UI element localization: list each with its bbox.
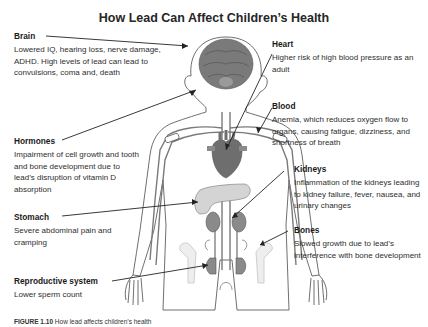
- pelvis-gap: [220, 283, 232, 291]
- kidneys-section: Kidneys Inflammation of the kidneys lead…: [294, 164, 426, 212]
- heart-text: Higher risk of high blood pressure as an…: [272, 52, 422, 75]
- blood-section: Blood Anemia, which reduces oxygen flow …: [272, 101, 424, 149]
- heart-section: Heart Higher risk of high blood pressure…: [272, 39, 422, 75]
- blood-text: Anemia, which reduces oxygen flow to org…: [272, 114, 424, 149]
- blood-heading: Blood: [272, 101, 424, 111]
- bones-section: Bones Slowed growth due to lead’s interf…: [294, 225, 426, 261]
- brain-text: Lowered IQ, hearing loss, nerve damage, …: [14, 44, 184, 79]
- caption-label: FIGURE 1.10: [14, 318, 53, 325]
- hormones-section: Hormones Impairment of cell growth and t…: [14, 136, 139, 195]
- brain-heading: Brain: [14, 31, 184, 41]
- kidneys-text: Inflammation of the kidneys leading to k…: [294, 177, 426, 212]
- right-hand-icon: [309, 275, 327, 305]
- bones-text: Slowed growth due to lead’s interference…: [294, 238, 426, 261]
- stomach-section: Stomach Severe abdominal pain and crampi…: [14, 212, 124, 248]
- hormones-text: Impairment of cell growth and tooth and …: [14, 149, 139, 195]
- stomach-heading: Stomach: [14, 212, 124, 222]
- reproductive-section: Reproductive system Lower sperm count: [14, 276, 144, 301]
- hormones-heading: Hormones: [14, 136, 139, 146]
- brain-organ: [199, 39, 253, 89]
- bones-heading: Bones: [294, 225, 426, 235]
- brain-section: Brain Lowered IQ, hearing loss, nerve da…: [14, 31, 184, 79]
- reproductive-heading: Reproductive system: [14, 276, 144, 286]
- stomach-text: Severe abdominal pain and cramping: [14, 225, 124, 248]
- kidneys-heading: Kidneys: [294, 164, 426, 174]
- caption-text: How lead affects children’s health: [55, 318, 152, 325]
- reproductive-text: Lower sperm count: [14, 289, 144, 301]
- hands: [125, 275, 326, 305]
- figure-caption: FIGURE 1.10 How lead affects children’s …: [14, 318, 151, 325]
- heart-heading: Heart: [272, 39, 422, 49]
